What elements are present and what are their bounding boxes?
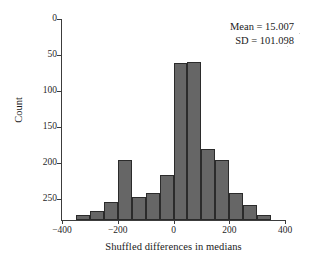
histogram-bar [160, 175, 174, 220]
histogram-bar [174, 63, 188, 220]
histogram-bar [104, 202, 118, 220]
y-tick-mark [57, 127, 61, 128]
y-tick-mark [57, 55, 61, 56]
x-tick-label: 0 [171, 226, 176, 236]
y-tick-mark [57, 19, 61, 20]
x-tick-label: −200 [108, 226, 128, 236]
histogram-bar [201, 149, 215, 220]
x-tick-mark [62, 220, 63, 224]
y-tick-label: 50 [48, 50, 58, 60]
y-tick-mark [57, 163, 61, 164]
x-tick-mark [118, 220, 119, 224]
histogram-bar [76, 215, 90, 220]
y-axis-title: Count [13, 97, 24, 123]
y-tick-mark [57, 91, 61, 92]
y-tick-label: 250 [43, 194, 57, 204]
plot-area [62, 19, 285, 220]
histogram-bar [215, 160, 229, 220]
y-tick-label: 100 [43, 86, 57, 96]
histogram-bar [118, 160, 132, 220]
histogram-bar [187, 62, 201, 220]
x-tick-mark [229, 220, 230, 224]
x-tick-mark [285, 220, 286, 224]
y-tick-label: 150 [43, 122, 57, 132]
y-tick-mark [57, 199, 61, 200]
scan-speck [299, 33, 300, 34]
x-tick-label: 400 [278, 226, 292, 236]
x-tick-mark [174, 220, 175, 224]
x-axis-title: Shuffled differences in medians [62, 241, 285, 252]
histogram-bar [132, 197, 146, 220]
y-tick-label: 200 [43, 158, 57, 168]
scan-speck [287, 46, 288, 47]
histogram-bar [257, 215, 271, 220]
y-tick-label: 0 [52, 14, 57, 24]
x-tick-label: 200 [222, 226, 236, 236]
histogram-bar [90, 211, 104, 220]
histogram-bar [146, 193, 160, 220]
histogram-bar [229, 193, 243, 220]
histogram-figure: Count Mean = 15.007 SD = 101.098 0501001… [0, 0, 310, 273]
x-tick-label: −400 [52, 226, 72, 236]
histogram-bar [243, 205, 257, 220]
